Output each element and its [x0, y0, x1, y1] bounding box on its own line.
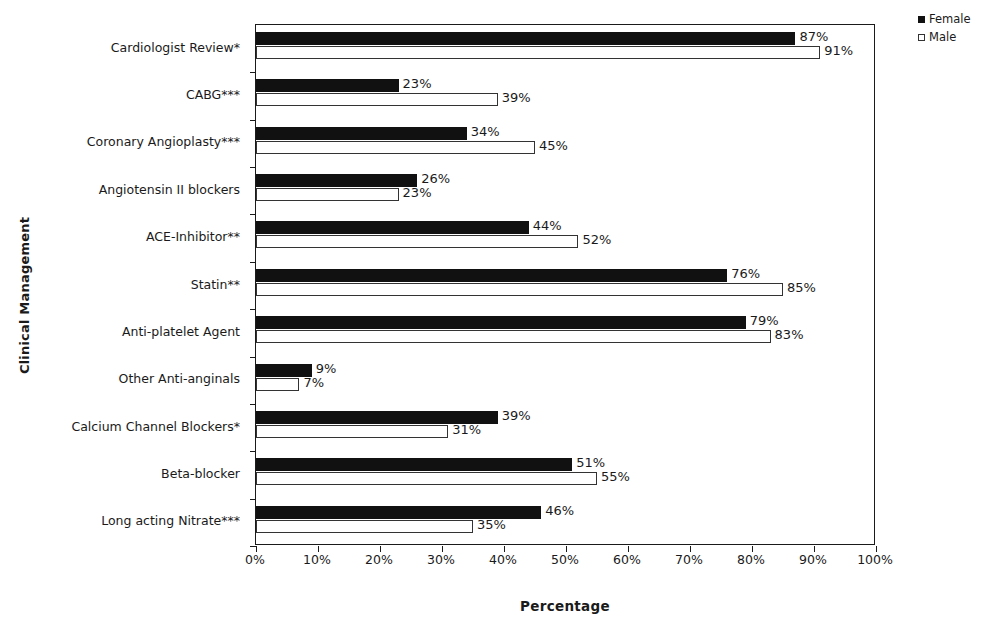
bar-value-female: 34% — [471, 125, 500, 138]
category-label: Cardiologist Review* — [0, 41, 240, 55]
category-label: Long acting Nitrate*** — [0, 514, 240, 528]
category-label: ACE-Inhibitor** — [0, 230, 240, 244]
bar-male[interactable] — [256, 46, 820, 59]
bar-value-female: 23% — [403, 77, 432, 90]
bar-value-male: 85% — [787, 281, 816, 294]
category-label: Other Anti-anginals — [0, 372, 240, 386]
x-axis-tick-label: 30% — [427, 552, 455, 567]
bar-group: 34%45% — [256, 120, 874, 167]
bar-male[interactable] — [256, 330, 771, 343]
x-axis-tick-label: 40% — [489, 552, 517, 567]
bar-male[interactable] — [256, 188, 399, 201]
bar-group: 26%23% — [256, 167, 874, 214]
x-axis-title: Percentage — [255, 598, 875, 614]
x-axis-tick-label: 80% — [737, 552, 765, 567]
x-axis-tick-label: 100% — [857, 552, 893, 567]
bar-value-female: 79% — [750, 314, 779, 327]
category-label: Calcium Channel Blockers* — [0, 420, 240, 434]
bar-group: 46%35% — [256, 499, 874, 546]
bar-value-female: 87% — [799, 30, 828, 43]
x-axis-tick-label: 0% — [245, 552, 265, 567]
bar-male[interactable] — [256, 425, 448, 438]
bar-male[interactable] — [256, 378, 299, 391]
legend-label-female: Female — [929, 10, 971, 28]
bar-value-male: 31% — [452, 423, 481, 436]
bar-value-female: 39% — [502, 409, 531, 422]
legend-item-male[interactable]: Male — [918, 28, 971, 46]
category-label: Anti-platelet Agent — [0, 325, 240, 339]
bar-female[interactable] — [256, 458, 572, 471]
bar-group: 87%91% — [256, 25, 874, 72]
chart-legend: Female Male — [918, 10, 971, 46]
bar-female[interactable] — [256, 127, 467, 140]
x-axis-tick-label: 50% — [551, 552, 579, 567]
bar-value-male: 55% — [601, 470, 630, 483]
bar-group: 39%31% — [256, 404, 874, 451]
bar-value-female: 76% — [731, 267, 760, 280]
bar-female[interactable] — [256, 32, 795, 45]
bar-value-male: 23% — [403, 186, 432, 199]
category-label: CABG*** — [0, 88, 240, 102]
bar-male[interactable] — [256, 141, 535, 154]
bar-value-female: 9% — [316, 362, 337, 375]
bar-value-male: 39% — [502, 91, 531, 104]
category-label: Coronary Angioplasty*** — [0, 135, 240, 149]
legend-item-female[interactable]: Female — [918, 10, 971, 28]
bar-value-female: 46% — [545, 504, 574, 517]
x-axis-tick-label: 70% — [675, 552, 703, 567]
bar-female[interactable] — [256, 316, 746, 329]
bar-group: 44%52% — [256, 214, 874, 261]
bar-group: 9%7% — [256, 357, 874, 404]
bar-value-female: 44% — [533, 219, 562, 232]
bar-chart-figure: Clinical Management 87%91%23%39%34%45%26… — [0, 0, 997, 640]
bar-value-male: 52% — [582, 233, 611, 246]
bar-value-female: 26% — [421, 172, 450, 185]
bar-value-male: 7% — [303, 376, 324, 389]
bar-value-male: 45% — [539, 139, 568, 152]
category-label: Angiotensin II blockers — [0, 183, 240, 197]
x-axis-tick-label: 90% — [799, 552, 827, 567]
bar-value-male: 35% — [477, 518, 506, 531]
category-label: Statin** — [0, 278, 240, 292]
x-axis-tick-label: 10% — [303, 552, 331, 567]
bar-group: 76%85% — [256, 262, 874, 309]
bar-male[interactable] — [256, 235, 578, 248]
outline-square-icon — [918, 34, 925, 41]
bar-group: 23%39% — [256, 72, 874, 119]
plot-area: 87%91%23%39%34%45%26%23%44%52%76%85%79%8… — [255, 24, 875, 545]
x-axis-tick-label: 20% — [365, 552, 393, 567]
legend-label-male: Male — [929, 28, 956, 46]
bar-female[interactable] — [256, 174, 417, 187]
bar-value-male: 91% — [824, 44, 853, 57]
bar-male[interactable] — [256, 93, 498, 106]
bar-male[interactable] — [256, 520, 473, 533]
bar-female[interactable] — [256, 79, 399, 92]
x-axis-tick-label: 60% — [613, 552, 641, 567]
category-label: Beta-blocker — [0, 467, 240, 481]
bar-group: 79%83% — [256, 309, 874, 356]
bar-female[interactable] — [256, 221, 529, 234]
bar-male[interactable] — [256, 472, 597, 485]
bar-male[interactable] — [256, 283, 783, 296]
bar-value-male: 83% — [775, 328, 804, 341]
bar-female[interactable] — [256, 269, 727, 282]
bar-group: 51%55% — [256, 451, 874, 498]
filled-square-icon — [918, 16, 925, 23]
bar-value-female: 51% — [576, 456, 605, 469]
